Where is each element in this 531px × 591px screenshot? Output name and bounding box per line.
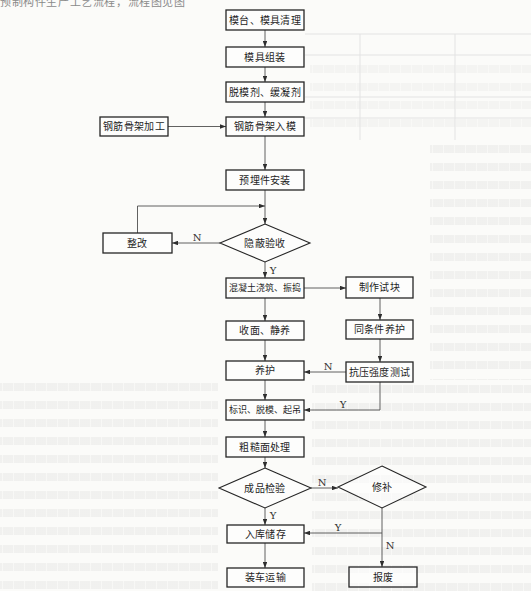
- edge-rectification-loop-back: [138, 206, 266, 233]
- node-label: 成品检验: [244, 482, 285, 494]
- edge-label-y: Y: [339, 399, 347, 410]
- edge-label-n: N: [318, 477, 327, 488]
- node-compressive-strength-test: 抗压强度测试: [346, 362, 413, 382]
- node-surface-finishing-resting: 收面、静养: [226, 321, 304, 340]
- node-mold-assembly: 模具组装: [226, 47, 304, 67]
- node-concealed-work-inspection: 隐蔽验收: [220, 224, 310, 262]
- node-marking-demolding-lifting: 标识、脱模、起吊: [226, 400, 304, 420]
- process-flowchart: N Y N Y N Y Y N 模台、模具清理 模具组装 脱模剂、缓凝剂 钢筋骨…: [0, 0, 531, 591]
- node-finished-product-inspection: 成品检验: [219, 468, 311, 508]
- node-label: 隐蔽验收: [244, 237, 285, 249]
- node-embedded-parts-installation: 预埋件安装: [226, 170, 304, 190]
- node-rough-surface-treatment: 粗糙面处理: [226, 437, 304, 457]
- node-label: 修补: [372, 481, 393, 493]
- node-label: 粗糙面处理: [239, 441, 291, 453]
- node-repair: 修补: [338, 466, 426, 508]
- node-concrete-pouring-vibrating: 混凝土浇筑、振捣: [226, 278, 304, 298]
- node-label: 制作试块: [359, 281, 400, 293]
- node-label: 预埋件安装: [239, 174, 291, 186]
- node-scrap: 报废: [349, 567, 417, 587]
- edge-label-n: N: [324, 361, 333, 372]
- node-curing: 养护: [226, 361, 304, 380]
- node-label: 模具组装: [244, 51, 285, 63]
- node-rectification: 整改: [103, 233, 172, 253]
- node-label: 收面、静养: [239, 324, 291, 336]
- node-rebar-cage-fabrication: 钢筋骨架加工: [100, 117, 168, 136]
- node-label: 钢筋骨架加工: [103, 120, 165, 132]
- node-label: 同条件养护: [354, 323, 406, 335]
- node-label: 标识、脱模、起吊: [229, 404, 301, 415]
- node-label: 装车运输: [245, 571, 286, 583]
- edge-label-y: Y: [269, 265, 277, 276]
- node-test-block-making: 制作试块: [346, 277, 413, 298]
- node-release-agent-retarder: 脱模剂、缓凝剂: [226, 82, 304, 102]
- node-loading-transport: 装车运输: [227, 568, 304, 587]
- node-label: 整改: [127, 237, 148, 249]
- node-same-condition-curing: 同条件养护: [346, 320, 413, 339]
- node-rebar-cage-placement: 钢筋骨架入模: [226, 117, 304, 136]
- edge-label-y: Y: [334, 522, 342, 533]
- node-label: 钢筋骨架入模: [234, 120, 296, 132]
- node-mold-table-cleaning: 模台、模具清理: [226, 10, 304, 30]
- node-label: 入库储存: [245, 528, 286, 540]
- edge-label-n: N: [386, 540, 395, 551]
- bleed-through-table-lines: [305, 34, 531, 140]
- node-label: 混凝土浇筑、振捣: [229, 282, 301, 293]
- node-label: 报废: [373, 571, 394, 583]
- node-label: 抗压强度测试: [349, 366, 411, 378]
- node-label: 脱模剂、缓凝剂: [229, 86, 301, 98]
- node-label: 养护: [255, 364, 276, 376]
- node-label: 模台、模具清理: [229, 14, 301, 26]
- edge-label-n: N: [193, 232, 202, 243]
- edge-label-y: Y: [269, 510, 277, 521]
- node-warehouse-storage: 入库储存: [227, 525, 304, 543]
